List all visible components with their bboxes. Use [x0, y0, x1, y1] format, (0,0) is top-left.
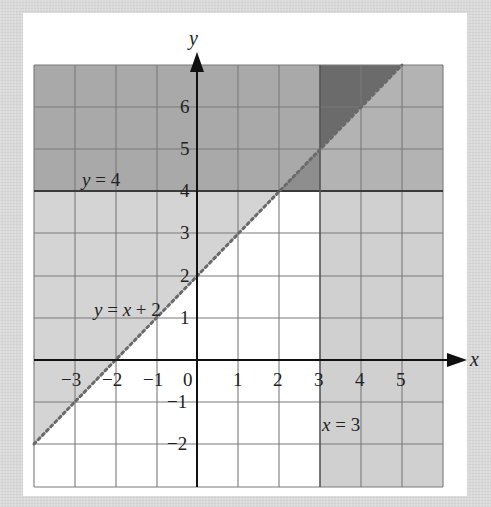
svg-text:−3: −3	[61, 369, 81, 390]
svg-text:−1: −1	[167, 391, 187, 412]
x-axis-arrow-icon	[447, 353, 467, 367]
svg-text:4: 4	[180, 180, 190, 201]
svg-text:4: 4	[355, 369, 365, 390]
svg-text:2: 2	[180, 265, 190, 286]
y-axis-arrow-icon	[190, 52, 204, 72]
svg-text:2: 2	[273, 369, 283, 390]
label-y-equals-4: y = 4	[80, 169, 121, 190]
y-axis-label: y	[187, 27, 198, 50]
x-axis-label: x	[469, 348, 479, 370]
svg-text:0: 0	[183, 369, 193, 390]
svg-text:−2: −2	[102, 369, 122, 390]
inequality-graph: y x −3 −2 −1 0 1 2 3 4 5 6 5 4 3 2 1 −1 …	[0, 0, 491, 507]
svg-text:3: 3	[314, 369, 324, 390]
svg-text:1: 1	[180, 307, 190, 328]
svg-text:1: 1	[233, 369, 243, 390]
label-x-equals-3: x = 3	[321, 414, 360, 435]
region-above-y4-left	[34, 65, 320, 191]
label-y-equals-x-plus-2: y = x + 2	[92, 299, 161, 320]
svg-text:3: 3	[180, 222, 190, 243]
svg-text:−2: −2	[167, 433, 187, 454]
svg-text:−1: −1	[143, 369, 163, 390]
region-right-of-x3	[320, 191, 443, 487]
svg-text:5: 5	[396, 369, 406, 390]
svg-text:6: 6	[180, 96, 190, 117]
svg-text:5: 5	[180, 138, 190, 159]
